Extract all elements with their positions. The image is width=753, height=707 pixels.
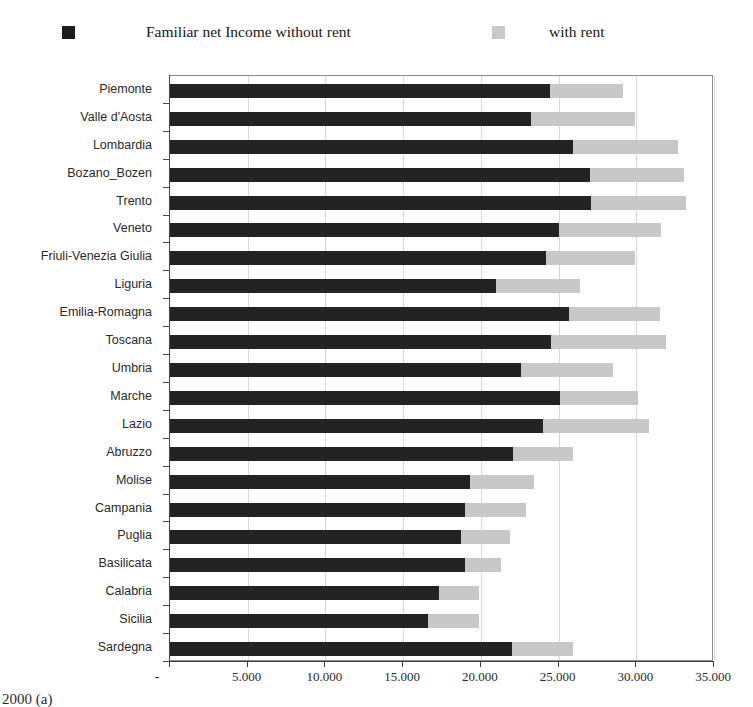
y-axis-label: Calabria [105, 585, 152, 598]
y-axis-tick [163, 382, 169, 383]
y-axis-line [169, 75, 170, 661]
x-axis-label: 35.000 [695, 670, 731, 683]
y-axis-tick [163, 438, 169, 439]
bar-row [170, 586, 479, 600]
bar-row [170, 335, 666, 349]
bar-row [170, 503, 526, 517]
bar-segment-without-rent [170, 307, 569, 321]
bar-segment-with-rent [573, 140, 679, 154]
y-axis-label: Valle d'Aosta [80, 111, 152, 124]
y-axis-label: Piemonte [99, 83, 152, 96]
bar-segment-with-rent [439, 586, 479, 600]
bar-segment-without-rent [170, 112, 531, 126]
bar-segment-with-rent [590, 168, 685, 182]
bar-segment-with-rent [461, 530, 511, 544]
bar-segment-without-rent [170, 168, 590, 182]
y-axis-tick [163, 410, 169, 411]
bar-segment-with-rent [546, 251, 635, 265]
y-axis-label: Lazio [122, 418, 152, 431]
x-axis-label: 5.000 [232, 670, 261, 683]
y-axis-label: Basilicata [99, 557, 153, 570]
bar-segment-with-rent [470, 475, 534, 489]
bar-row [170, 558, 501, 572]
bar-segment-without-rent [170, 558, 465, 572]
x-axis-tick [169, 661, 170, 667]
bar-row [170, 530, 510, 544]
bar-row [170, 84, 623, 98]
bar-segment-without-rent [170, 363, 521, 377]
bar-segment-without-rent [170, 614, 428, 628]
y-axis-tick [163, 633, 169, 634]
y-axis-label: Emilia-Romagna [60, 306, 152, 319]
y-axis-tick [163, 326, 169, 327]
bar-row [170, 642, 573, 656]
bars-layer [170, 76, 712, 660]
y-axis-tick [163, 187, 169, 188]
bar-segment-with-rent [496, 279, 580, 293]
bar-row [170, 112, 635, 126]
bar-row [170, 363, 613, 377]
bar-segment-with-rent [559, 223, 662, 237]
y-axis-label: Veneto [113, 222, 152, 235]
gridline [714, 76, 715, 660]
bar-segment-with-rent [591, 196, 686, 210]
bar-segment-without-rent [170, 279, 496, 293]
y-axis-label: Trento [116, 195, 152, 208]
bar-segment-without-rent [170, 642, 512, 656]
x-axis-label: - [155, 670, 160, 684]
bar-segment-with-rent [560, 391, 638, 405]
x-axis-tick [558, 661, 559, 667]
bar-row [170, 475, 534, 489]
bar-segment-with-rent [551, 335, 666, 349]
bar-segment-without-rent [170, 335, 551, 349]
y-axis-label: Bozano_Bozen [67, 167, 152, 180]
bar-segment-with-rent [531, 112, 635, 126]
y-axis-tick [163, 605, 169, 606]
bar-segment-with-rent [521, 363, 613, 377]
y-axis-label: Abruzzo [106, 446, 152, 459]
y-axis-tick [163, 298, 169, 299]
bar-segment-with-rent [569, 307, 659, 321]
bar-segment-without-rent [170, 419, 543, 433]
y-axis-label: Lombardia [93, 139, 152, 152]
x-axis-tick [324, 661, 325, 667]
bar-segment-with-rent [512, 642, 573, 656]
y-axis-tick [163, 215, 169, 216]
bar-row [170, 251, 636, 265]
bar-row [170, 391, 638, 405]
y-axis-tick [163, 131, 169, 132]
y-axis-labels: PiemonteValle d'AostaLombardiaBozano_Boz… [0, 75, 160, 661]
x-axis-label: 25.000 [540, 670, 576, 683]
bar-segment-with-rent [465, 558, 501, 572]
y-axis-label: Sardegna [98, 641, 152, 654]
bar-row [170, 223, 661, 237]
y-axis-label: Puglia [117, 529, 152, 542]
bar-row [170, 140, 678, 154]
bar-segment-without-rent [170, 84, 550, 98]
y-axis-tick [163, 103, 169, 104]
y-axis-tick [163, 494, 169, 495]
x-axis-label: 20.000 [462, 670, 498, 683]
x-axis-tick [247, 661, 248, 667]
y-axis-label: Liguria [114, 278, 152, 291]
y-axis-label: Toscana [105, 334, 152, 347]
bar-row [170, 614, 479, 628]
bar-segment-without-rent [170, 223, 559, 237]
bar-row [170, 447, 573, 461]
bar-segment-without-rent [170, 475, 470, 489]
y-axis-label: Sicilia [119, 613, 152, 626]
bar-segment-with-rent [543, 419, 649, 433]
bar-segment-with-rent [428, 614, 479, 628]
y-axis-label: Umbria [112, 362, 152, 375]
bar-segment-without-rent [170, 447, 513, 461]
bar-segment-with-rent [513, 447, 572, 461]
bar-row [170, 168, 684, 182]
bar-segment-without-rent [170, 140, 573, 154]
bar-segment-without-rent [170, 530, 461, 544]
bottom-caption: 2000 (a) [2, 692, 52, 707]
x-axis-line [169, 661, 714, 662]
x-axis-tick [402, 661, 403, 667]
y-axis-tick [163, 521, 169, 522]
bar-segment-without-rent [170, 503, 465, 517]
bar-segment-without-rent [170, 586, 439, 600]
